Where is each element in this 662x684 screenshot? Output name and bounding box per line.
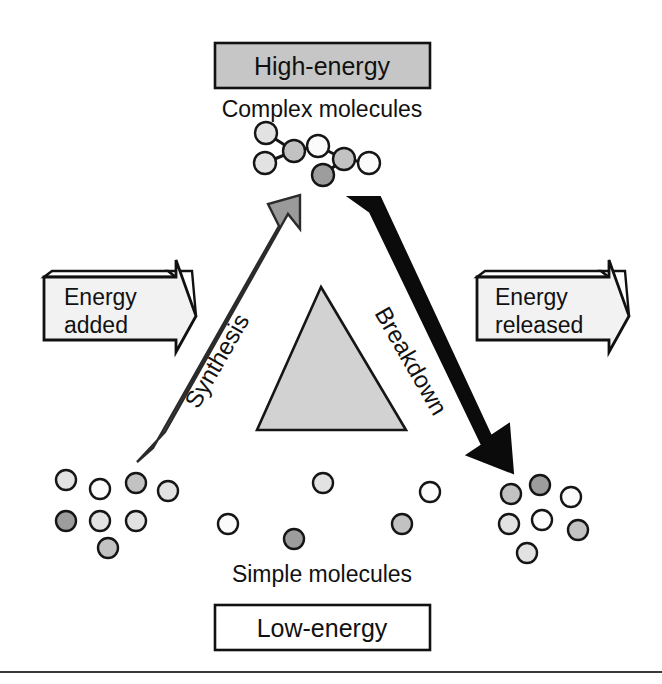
- simple-molecule-circle-icon: [56, 470, 76, 490]
- energy-added-banner-arrow-icon: Energy added: [44, 260, 196, 352]
- simple-molecule-circle-icon: [126, 511, 146, 531]
- high-energy-label: High-energy: [254, 52, 391, 80]
- complex-molecule-atom: [333, 148, 355, 170]
- simple-molecule-circle-icon: [90, 479, 110, 499]
- complex-molecule-chain-icon: [254, 122, 380, 186]
- simple-molecule-circle-icon: [126, 473, 146, 493]
- simple-molecule-circle-icon: [561, 487, 581, 507]
- energy-released-line1: Energy: [495, 284, 568, 310]
- energy-released-banner-arrow-icon: Energy released: [477, 260, 629, 352]
- simple-molecule-circle-icon: [517, 543, 537, 563]
- simple-molecule-circle-icon: [56, 511, 76, 531]
- simple-molecule-circle-icon: [158, 481, 178, 501]
- simple-molecules-label: Simple molecules: [232, 561, 412, 587]
- simple-molecules-group: [56, 470, 588, 563]
- low-energy-box: Low-energy: [215, 605, 430, 650]
- simple-molecule-circle-icon: [501, 484, 521, 504]
- simple-molecule-circle-icon: [284, 529, 304, 549]
- complex-molecule-atom: [312, 164, 334, 186]
- simple-molecule-circle-icon: [568, 520, 588, 540]
- complex-molecule-atom: [255, 122, 277, 144]
- simple-molecule-circle-icon: [532, 510, 552, 530]
- complex-molecules-label: Complex molecules: [222, 96, 423, 122]
- energy-released-line2: released: [495, 312, 583, 338]
- energy-added-line2: added: [64, 312, 128, 338]
- complex-molecule-atom: [307, 135, 329, 157]
- simple-molecule-circle-icon: [530, 475, 550, 495]
- simple-molecule-circle-icon: [218, 514, 238, 534]
- complex-molecule-atom: [283, 140, 305, 162]
- simple-molecule-circle-icon: [98, 538, 118, 558]
- high-energy-box: High-energy: [215, 43, 430, 88]
- simple-molecule-circle-icon: [90, 511, 110, 531]
- metabolism-energy-diagram: High-energy Complex molecules Synthesis …: [0, 0, 662, 684]
- energy-added-line1: Energy: [64, 284, 137, 310]
- complex-molecule-atom: [254, 152, 276, 174]
- low-energy-label: Low-energy: [257, 614, 388, 642]
- figure-canvas: High-energy Complex molecules Synthesis …: [0, 0, 662, 684]
- simple-molecule-circle-icon: [499, 514, 519, 534]
- simple-molecule-circle-icon: [392, 514, 412, 534]
- complex-molecule-atom: [358, 152, 380, 174]
- simple-molecule-circle-icon: [420, 482, 440, 502]
- simple-molecule-circle-icon: [313, 473, 333, 493]
